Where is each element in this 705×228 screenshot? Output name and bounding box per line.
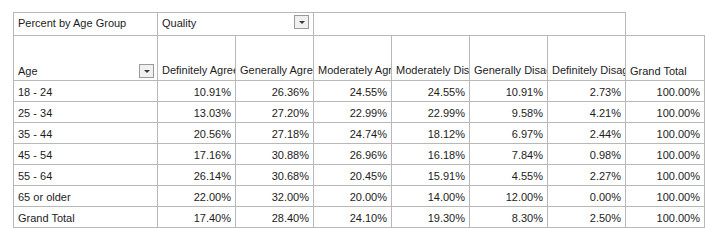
pivot-header-row: Age Definitely Agree Generally Agree Mod… <box>14 36 705 81</box>
cell-value: 2.73% <box>548 81 626 102</box>
cell-value: 18.12% <box>392 123 470 144</box>
grand-total-value: 28.40% <box>236 207 314 228</box>
table-row: 65 or older 22.00% 32.00% 20.00% 14.00% … <box>14 186 705 207</box>
grand-total-value: 8.30% <box>470 207 548 228</box>
cell-value: 0.00% <box>548 186 626 207</box>
table-row: 35 - 44 20.56% 27.18% 24.74% 18.12% 6.97… <box>14 123 705 144</box>
cell-value: 15.91% <box>392 165 470 186</box>
column-header-grand-total: Grand Total <box>626 36 705 81</box>
cell-value: 14.00% <box>392 186 470 207</box>
cell-value: 6.97% <box>470 123 548 144</box>
cell-value: 20.56% <box>158 123 236 144</box>
grand-total-row: Grand Total 17.40% 28.40% 24.10% 19.30% … <box>14 207 705 228</box>
row-label: 35 - 44 <box>14 123 158 144</box>
cell-value: 22.99% <box>314 102 392 123</box>
grand-total-value: 17.40% <box>158 207 236 228</box>
cell-value: 20.45% <box>314 165 392 186</box>
cell-value: 27.18% <box>236 123 314 144</box>
cell-value: 24.74% <box>314 123 392 144</box>
row-label: 18 - 24 <box>14 81 158 102</box>
row-label: 65 or older <box>14 186 158 207</box>
column-filter-cell[interactable]: Quality <box>158 13 314 36</box>
cell-value: 17.16% <box>158 144 236 165</box>
cell-value: 4.55% <box>470 165 548 186</box>
cell-value: 13.03% <box>158 102 236 123</box>
pivot-table: Percent by Age Group Quality Age De <box>13 12 705 228</box>
column-header-generally-agree: Generally Agree <box>236 36 314 81</box>
cell-value: 22.00% <box>158 186 236 207</box>
cell-value: 24.55% <box>392 81 470 102</box>
cell-value: 10.91% <box>158 81 236 102</box>
pivot-table-container: Percent by Age Group Quality Age De <box>13 12 610 228</box>
cell-value: 2.44% <box>548 123 626 144</box>
grand-total-overall: 100.00% <box>626 207 705 228</box>
cell-value: 16.18% <box>392 144 470 165</box>
cell-value: 0.98% <box>548 144 626 165</box>
cell-row-total: 100.00% <box>626 186 705 207</box>
cell-value: 7.84% <box>470 144 548 165</box>
grand-total-value: 19.30% <box>392 207 470 228</box>
cell-value: 9.58% <box>470 102 548 123</box>
pivot-title-cell: Percent by Age Group <box>14 13 158 36</box>
cell-value: 30.88% <box>236 144 314 165</box>
row-label: 45 - 54 <box>14 144 158 165</box>
chevron-down-glyph <box>299 21 305 24</box>
grand-total-label: Grand Total <box>14 207 158 228</box>
cell-row-total: 100.00% <box>626 81 705 102</box>
column-header-definitely-disagree: Definitely Disagree <box>548 36 626 81</box>
cell-value: 2.27% <box>548 165 626 186</box>
cell-value: 26.96% <box>314 144 392 165</box>
cell-value: 26.14% <box>158 165 236 186</box>
column-filter-label: Quality <box>162 17 196 29</box>
cell-value: 32.00% <box>236 186 314 207</box>
cell-value: 12.00% <box>470 186 548 207</box>
cell-row-total: 100.00% <box>626 102 705 123</box>
cell-value: 10.91% <box>470 81 548 102</box>
cell-row-total: 100.00% <box>626 144 705 165</box>
pivot-title-row: Percent by Age Group Quality <box>14 13 705 36</box>
table-row: 18 - 24 10.91% 26.36% 24.55% 24.55% 10.9… <box>14 81 705 102</box>
row-label: 55 - 64 <box>14 165 158 186</box>
column-header-moderately-disagree: Moderately Disagree <box>392 36 470 81</box>
chevron-down-icon[interactable] <box>294 15 309 29</box>
table-row: 55 - 64 26.14% 30.68% 20.45% 15.91% 4.55… <box>14 165 705 186</box>
column-header-moderately-agree: Moderately Agree <box>314 36 392 81</box>
row-field-header[interactable]: Age <box>14 36 158 81</box>
grand-total-value: 24.10% <box>314 207 392 228</box>
table-row: 45 - 54 17.16% 30.88% 26.96% 16.18% 7.84… <box>14 144 705 165</box>
cell-value: 26.36% <box>236 81 314 102</box>
cell-row-total: 100.00% <box>626 165 705 186</box>
cell-value: 30.68% <box>236 165 314 186</box>
table-row: 25 - 34 13.03% 27.20% 22.99% 22.99% 9.58… <box>14 102 705 123</box>
column-header-definitely-agree: Definitely Agree <box>158 36 236 81</box>
row-field-label: Age <box>18 65 38 77</box>
chevron-down-icon[interactable] <box>139 64 154 78</box>
pivot-title-spacer <box>314 13 626 36</box>
cell-value: 4.21% <box>548 102 626 123</box>
column-header-generally-disagree: Generally Disagree <box>470 36 548 81</box>
cell-value: 24.55% <box>314 81 392 102</box>
cell-value: 27.20% <box>236 102 314 123</box>
chevron-down-glyph <box>144 70 150 73</box>
cell-value: 20.00% <box>314 186 392 207</box>
grand-total-value: 2.50% <box>548 207 626 228</box>
row-label: 25 - 34 <box>14 102 158 123</box>
cell-row-total: 100.00% <box>626 123 705 144</box>
cell-value: 22.99% <box>392 102 470 123</box>
